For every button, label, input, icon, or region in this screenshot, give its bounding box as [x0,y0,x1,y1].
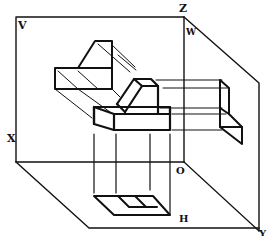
label-v-plane: V [18,20,27,31]
label-x-axis: X [7,133,16,144]
label-h-plane: H [179,214,188,224]
label-z-axis: Z [179,3,187,14]
projector-lines-side [156,80,228,130]
side-view-projection [220,80,242,144]
projection-diagram: V Z W X O H Y [0,0,271,236]
top-view-projection [94,196,170,215]
diagram-canvas [0,0,271,236]
label-y-axis: Y [259,229,266,236]
label-origin: O [176,166,185,176]
label-w-plane: W [186,28,196,37]
stepped-block-object [94,79,170,130]
